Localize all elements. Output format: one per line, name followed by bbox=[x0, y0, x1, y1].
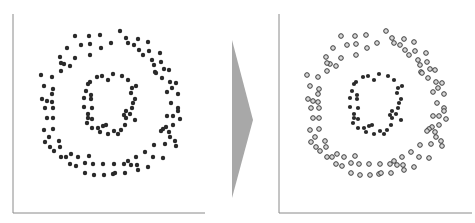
outer-cluster-point bbox=[436, 86, 441, 91]
data-point bbox=[178, 117, 182, 121]
data-point bbox=[135, 163, 139, 167]
data-point bbox=[165, 114, 169, 118]
outer-cluster-point bbox=[439, 139, 444, 144]
inner-cluster-point bbox=[352, 116, 356, 120]
outer-cluster-point bbox=[311, 116, 316, 121]
data-point bbox=[124, 116, 128, 120]
data-point bbox=[40, 97, 44, 101]
inner-cluster-point bbox=[395, 91, 399, 95]
unclustered-scatter-panel bbox=[0, 0, 220, 223]
outer-cluster-point bbox=[316, 75, 321, 80]
data-point bbox=[89, 97, 93, 101]
data-point bbox=[113, 171, 117, 175]
data-point bbox=[51, 87, 55, 91]
data-point bbox=[129, 91, 133, 95]
inner-cluster-point bbox=[390, 109, 394, 113]
outer-cluster-point bbox=[395, 163, 400, 168]
data-point bbox=[47, 135, 51, 139]
outer-cluster-point bbox=[402, 37, 407, 42]
data-point bbox=[130, 106, 134, 110]
outer-cluster-point bbox=[358, 173, 363, 178]
inner-cluster-point bbox=[356, 106, 360, 110]
inner-cluster-point bbox=[390, 116, 394, 120]
data-point bbox=[58, 145, 62, 149]
outer-cluster-point bbox=[424, 51, 429, 56]
data-point bbox=[126, 41, 130, 45]
inner-cluster-point bbox=[366, 74, 370, 78]
unclustered-scatter-plot bbox=[0, 0, 220, 223]
data-point bbox=[68, 64, 72, 68]
inner-cluster-point bbox=[364, 130, 368, 134]
data-point bbox=[86, 112, 90, 116]
inner-cluster-point bbox=[378, 129, 382, 133]
data-point bbox=[167, 68, 171, 72]
data-point bbox=[170, 86, 174, 90]
data-point bbox=[131, 101, 135, 105]
outer-cluster-point bbox=[418, 143, 423, 148]
outer-cluster-point bbox=[317, 116, 322, 121]
outer-cluster-point bbox=[317, 106, 322, 111]
outer-cluster-point bbox=[418, 63, 423, 68]
data-point bbox=[123, 123, 127, 127]
outer-cluster-point bbox=[330, 155, 335, 160]
outer-cluster-point bbox=[403, 48, 408, 53]
inner-cluster-point bbox=[355, 93, 359, 97]
inner-cluster-point bbox=[355, 97, 359, 101]
data-point bbox=[137, 48, 141, 52]
data-point bbox=[120, 74, 124, 78]
data-point bbox=[146, 165, 150, 169]
outer-cluster-point bbox=[384, 29, 389, 34]
data-point bbox=[42, 84, 46, 88]
data-point bbox=[85, 121, 89, 125]
data-point bbox=[51, 127, 55, 131]
outer-cluster-point bbox=[400, 155, 405, 160]
data-point bbox=[176, 92, 180, 96]
outer-cluster-point bbox=[334, 64, 339, 69]
outer-cluster-point bbox=[389, 171, 394, 176]
inner-cluster-point bbox=[352, 112, 356, 116]
data-point bbox=[141, 53, 145, 57]
data-point bbox=[91, 162, 95, 166]
data-point bbox=[171, 114, 175, 118]
outer-cluster-point bbox=[426, 76, 431, 81]
data-point bbox=[43, 106, 47, 110]
data-point bbox=[134, 155, 138, 159]
outer-cluster-point bbox=[305, 73, 310, 78]
data-point bbox=[143, 150, 147, 154]
data-point bbox=[173, 139, 177, 143]
data-point bbox=[150, 58, 154, 62]
data-point bbox=[51, 116, 55, 120]
data-point bbox=[50, 100, 54, 104]
data-point bbox=[116, 132, 120, 136]
data-point bbox=[146, 40, 150, 44]
data-point bbox=[118, 29, 122, 33]
data-point bbox=[104, 123, 108, 127]
outer-cluster-point bbox=[309, 140, 314, 145]
outer-cluster-point bbox=[435, 101, 440, 106]
data-point bbox=[112, 162, 116, 166]
outer-cluster-point bbox=[325, 155, 330, 160]
outer-cluster-point bbox=[316, 92, 321, 97]
inner-cluster-point bbox=[361, 75, 365, 79]
inner-cluster-point bbox=[394, 112, 398, 116]
data-point bbox=[171, 123, 175, 127]
outer-cluster-point bbox=[325, 61, 330, 66]
outer-cluster-point bbox=[401, 163, 406, 168]
data-point bbox=[73, 34, 77, 38]
data-point bbox=[159, 60, 163, 64]
outer-cluster-point bbox=[308, 128, 313, 133]
clustered-scatter-panel bbox=[220, 0, 475, 223]
data-point bbox=[136, 168, 140, 172]
data-point bbox=[168, 135, 172, 139]
data-point bbox=[124, 109, 128, 113]
data-point bbox=[136, 37, 140, 41]
outer-cluster-point bbox=[342, 155, 347, 160]
outer-cluster-point bbox=[354, 53, 359, 58]
data-point bbox=[64, 155, 68, 159]
outer-cluster-point bbox=[317, 87, 322, 92]
outer-cluster-point bbox=[345, 43, 350, 48]
data-point bbox=[89, 93, 93, 97]
inner-cluster-point bbox=[399, 118, 403, 122]
data-point bbox=[74, 164, 78, 168]
data-point bbox=[130, 86, 134, 90]
